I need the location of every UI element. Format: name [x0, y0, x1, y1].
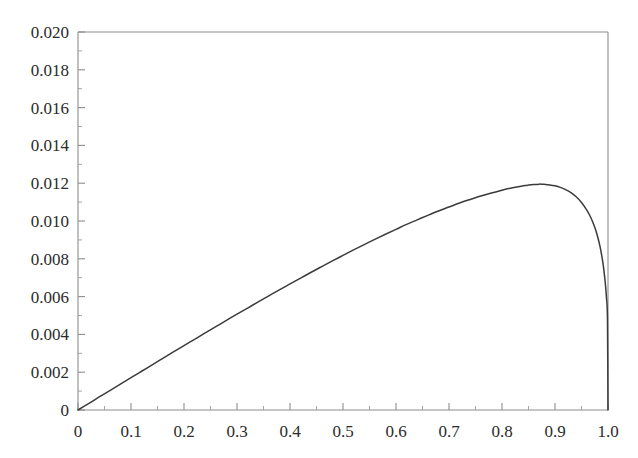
x-tick-label: 0.8 [491, 422, 512, 441]
x-tick-label: 0.4 [279, 422, 301, 441]
x-tick-label: 1.0 [597, 422, 618, 441]
y-tick-label: 0.016 [31, 99, 69, 118]
y-tick-label: 0.014 [31, 136, 70, 155]
x-tick-label: 0.3 [226, 422, 247, 441]
y-tick-label: 0.008 [31, 250, 69, 269]
y-tick-label: 0.018 [31, 61, 69, 80]
chart-background [0, 0, 638, 458]
line-chart: 00.0020.0040.0060.0080.0100.0120.0140.01… [0, 0, 638, 458]
x-tick-label: 0.6 [385, 422, 406, 441]
y-tick-label: 0 [61, 401, 70, 420]
y-tick-label: 0.006 [31, 288, 69, 307]
x-tick-label: 0 [74, 422, 83, 441]
y-tick-label: 0.020 [31, 23, 69, 42]
y-tick-label: 0.002 [31, 363, 69, 382]
x-tick-label: 0.1 [120, 422, 141, 441]
x-tick-label: 0.2 [173, 422, 194, 441]
chart-figure: 00.0020.0040.0060.0080.0100.0120.0140.01… [0, 0, 638, 458]
x-tick-label: 0.5 [332, 422, 353, 441]
x-tick-label: 0.9 [544, 422, 565, 441]
y-tick-label: 0.010 [31, 212, 69, 231]
x-tick-label: 0.7 [438, 422, 460, 441]
y-tick-label: 0.012 [31, 174, 69, 193]
y-tick-label: 0.004 [31, 325, 70, 344]
